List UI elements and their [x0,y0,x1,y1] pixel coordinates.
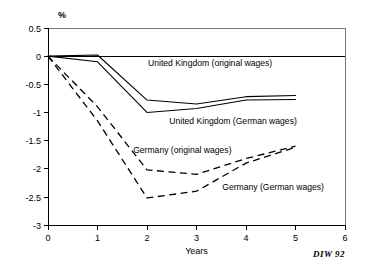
y-tick-label-0: 0.5 [28,24,41,34]
x-tick-label-2: 2 [144,233,149,243]
x-tick-label-4: 4 [243,233,248,243]
y-tick-label-3: -1 [33,108,41,118]
series-annotation-3: Germany (German wages) [222,182,324,192]
y-tick-label-4: -1.5 [25,136,41,146]
series-line-3 [48,56,296,198]
y-tick-label-2: -0.5 [25,80,41,90]
y-tick-label-1: 0 [36,52,41,62]
series-annotation-0: United Kingdom (original wages) [148,58,272,68]
y-tick-label-6: -2.5 [25,193,41,203]
y-axis-ticks [44,28,48,225]
annotation-layer: United Kingdom (original wages)United Ki… [133,58,324,192]
series-layer [48,55,296,198]
x-axis-tick-labels: 0 1 2 3 4 5 6 [45,233,347,243]
series-annotation-1: United Kingdom (German wages) [169,116,297,126]
y-axis-unit-label: % [58,10,66,20]
x-tick-label-1: 1 [95,233,100,243]
x-axis-title: Years [185,246,208,256]
y-axis-tick-labels: 0.5 0 -0.5 -1 -1.5 -2 -2.5 -3 [25,24,41,231]
x-tick-label-6: 6 [342,233,347,243]
x-tick-label-0: 0 [45,233,50,243]
chart-container: 0.5 0 -0.5 -1 -1.5 -2 -2.5 -3 % 0 1 2 3 [0,0,369,264]
source-watermark: DIW 92 [312,249,345,259]
x-tick-label-3: 3 [194,233,199,243]
y-tick-label-7: -3 [33,221,41,231]
x-axis-ticks [48,225,345,230]
series-annotation-2: Germany (original wages) [133,145,232,155]
x-tick-label-5: 5 [293,233,298,243]
line-chart: 0.5 0 -0.5 -1 -1.5 -2 -2.5 -3 % 0 1 2 3 [0,0,369,264]
y-tick-label-5: -2 [33,164,41,174]
